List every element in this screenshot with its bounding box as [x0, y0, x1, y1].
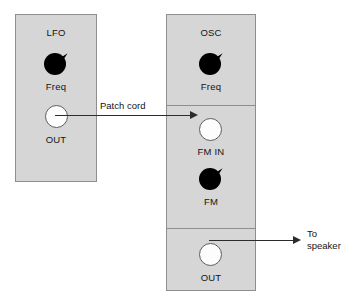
knob-lfo-freq[interactable]: [43, 50, 69, 76]
jack-label-osc-out: OUT: [167, 272, 255, 283]
module-title-osc: OSC: [167, 27, 255, 38]
speaker-out-wire: [209, 240, 295, 241]
knob-osc-fm[interactable]: [198, 165, 224, 191]
knob-label-osc-freq: Freq: [167, 81, 255, 92]
knob-icon: [43, 50, 69, 76]
speaker-out-label-line1: To: [307, 228, 341, 240]
patch-cord-wire: [55, 115, 193, 116]
jack-lfo-out[interactable]: [45, 105, 68, 128]
knob-icon: [198, 165, 224, 191]
speaker-out-label: To speaker: [307, 228, 341, 252]
speaker-out-label-line2: speaker: [307, 240, 341, 252]
jack-osc-out[interactable]: [199, 243, 222, 266]
patch-cord-label: Patch cord: [100, 100, 145, 112]
speaker-out-arrowhead: [293, 236, 301, 244]
module-title-lfo: LFO: [16, 27, 96, 38]
knob-label-lfo-freq: Freq: [16, 81, 96, 92]
jack-osc-fm-in[interactable]: [199, 118, 222, 141]
panel-divider-1: [167, 105, 255, 106]
knob-icon: [198, 50, 224, 76]
knob-osc-freq[interactable]: [198, 50, 224, 76]
patch-cord-arrowhead: [190, 111, 198, 119]
diagram-canvas: LFO Freq OUT OSC Freq FM IN: [0, 0, 350, 305]
jack-label-osc-fm-in: FM IN: [167, 146, 255, 157]
module-panel-lfo[interactable]: LFO Freq OUT: [15, 14, 97, 182]
knob-label-osc-fm: FM: [167, 196, 255, 207]
jack-label-lfo-out: OUT: [16, 134, 96, 145]
module-panel-osc[interactable]: OSC Freq FM IN FM OUT: [166, 14, 256, 291]
panel-divider-2: [167, 228, 255, 229]
